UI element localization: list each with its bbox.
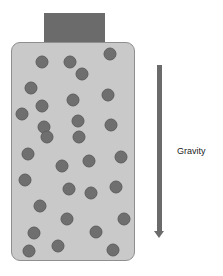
particle bbox=[63, 183, 76, 196]
particle bbox=[73, 131, 86, 144]
particle bbox=[115, 151, 128, 164]
particle bbox=[25, 82, 38, 95]
particle bbox=[72, 115, 85, 128]
particle bbox=[56, 160, 69, 173]
particle bbox=[52, 240, 65, 253]
gravity-arrow-shaft bbox=[157, 65, 162, 231]
particle bbox=[67, 94, 80, 107]
particle bbox=[118, 213, 131, 226]
particle bbox=[36, 56, 49, 69]
particle bbox=[110, 181, 123, 194]
particle bbox=[76, 68, 89, 81]
particle bbox=[83, 155, 96, 168]
particle bbox=[107, 244, 120, 257]
particle bbox=[34, 200, 47, 213]
gravity-label: Gravity bbox=[177, 146, 206, 156]
particle bbox=[61, 213, 74, 226]
particle bbox=[28, 227, 41, 240]
container-cap bbox=[44, 13, 105, 44]
particle bbox=[85, 187, 98, 200]
particle bbox=[19, 174, 32, 187]
particle bbox=[36, 100, 49, 113]
particle bbox=[102, 89, 115, 102]
particle bbox=[64, 56, 77, 69]
particle bbox=[104, 48, 117, 61]
particle bbox=[23, 245, 36, 258]
particle bbox=[41, 131, 54, 144]
particle bbox=[22, 148, 35, 161]
arrow-down-icon bbox=[154, 231, 164, 238]
particle bbox=[105, 119, 118, 132]
particle bbox=[16, 108, 29, 121]
particle bbox=[90, 226, 103, 239]
